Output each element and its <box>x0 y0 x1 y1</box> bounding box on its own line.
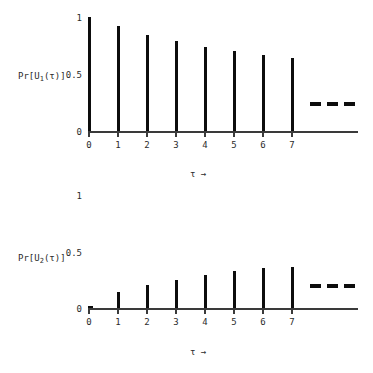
x-tick-label-u1-3: 3 <box>169 140 183 150</box>
bar-u1-6 <box>262 55 265 131</box>
bar-u2-4 <box>204 275 207 308</box>
plot-area-u1 <box>88 17 358 131</box>
x-tick-marks-u1 <box>88 133 358 139</box>
x-tick-label-u2-1: 1 <box>111 317 125 327</box>
x-tick-label-u2-2: 2 <box>140 317 154 327</box>
x-tick-u2-0 <box>88 310 90 314</box>
y-axis-title-u1-prefix: Pr[U <box>18 71 40 81</box>
bar-u1-0 <box>88 17 91 131</box>
x-tick-u1-1 <box>117 133 119 137</box>
x-tick-label-u2-6: 6 <box>256 317 270 327</box>
x-tick-u1-2 <box>146 133 148 137</box>
x-tick-u1-7 <box>291 133 293 137</box>
bar-u2-1 <box>117 292 120 308</box>
bar-u1-4 <box>204 47 207 131</box>
x-tick-u1-3 <box>175 133 177 137</box>
dash-2 <box>327 284 338 288</box>
y-tick-label-u1-half: 0.5 <box>56 70 82 80</box>
continuation-dashes-u1 <box>310 102 355 106</box>
bar-u1-2 <box>146 35 149 131</box>
x-tick-u2-5 <box>233 310 235 314</box>
y-tick-label-u2-1: 1 <box>62 191 82 201</box>
bar-u2-2 <box>146 285 149 308</box>
x-tick-u2-1 <box>117 310 119 314</box>
dash-3 <box>344 102 355 106</box>
x-tick-marks-u2 <box>88 310 358 316</box>
x-tick-u2-6 <box>262 310 264 314</box>
x-tick-u2-4 <box>204 310 206 314</box>
panel-u2: Pr[U2(τ)] 1 0.5 0 <box>0 190 373 373</box>
y-tick-label-u2-0: 0 <box>62 304 82 314</box>
x-tick-u2-2 <box>146 310 148 314</box>
x-axis-title-u1: τ → <box>190 169 206 180</box>
y-tick-label-u1-1: 1 <box>62 13 82 23</box>
bar-u2-5 <box>233 271 236 308</box>
x-tick-label-u1-5: 5 <box>227 140 241 150</box>
x-tick-label-u2-0: 0 <box>82 317 96 327</box>
y-tick-label-u2-half: 0.5 <box>56 248 82 258</box>
bar-u1-3 <box>175 41 178 131</box>
x-tick-label-u1-4: 4 <box>198 140 212 150</box>
bar-u2-6 <box>262 268 265 308</box>
bar-u1-5 <box>233 51 236 131</box>
x-tick-u2-7 <box>291 310 293 314</box>
y-tick-label-u1-0: 0 <box>62 127 82 137</box>
continuation-dashes-u2 <box>310 284 355 288</box>
x-tick-u1-6 <box>262 133 264 137</box>
x-tick-label-u1-2: 2 <box>140 140 154 150</box>
bar-u2-7 <box>291 267 294 308</box>
x-tick-u1-4 <box>204 133 206 137</box>
x-tick-label-u1-7: 7 <box>285 140 299 150</box>
bar-u1-7 <box>291 58 294 131</box>
y-axis-title-u1-subscript: 1 <box>40 75 44 83</box>
dash-1 <box>310 284 321 288</box>
y-axis-title-u2-subscript: 2 <box>40 257 44 265</box>
x-tick-u2-3 <box>175 310 177 314</box>
dash-1 <box>310 102 321 106</box>
y-axis-title-u2-prefix: Pr[U <box>18 253 40 263</box>
probability-distribution-figure: Pr[U1(τ)] 1 0.5 0 <box>0 0 373 373</box>
x-tick-label-u2-5: 5 <box>227 317 241 327</box>
x-tick-label-u1-6: 6 <box>256 140 270 150</box>
x-tick-u1-0 <box>88 133 90 137</box>
panel-u1: Pr[U1(τ)] 1 0.5 0 <box>0 0 373 190</box>
x-tick-label-u2-3: 3 <box>169 317 183 327</box>
plot-area-u2 <box>88 196 358 308</box>
x-tick-u1-5 <box>233 133 235 137</box>
dash-3 <box>344 284 355 288</box>
x-tick-label-u1-0: 0 <box>82 140 96 150</box>
bar-u1-1 <box>117 26 120 131</box>
bar-u2-3 <box>175 280 178 308</box>
x-tick-label-u2-4: 4 <box>198 317 212 327</box>
x-tick-label-u2-7: 7 <box>285 317 299 327</box>
dash-2 <box>327 102 338 106</box>
x-axis-title-u2: τ → <box>190 347 206 358</box>
x-tick-label-u1-1: 1 <box>111 140 125 150</box>
